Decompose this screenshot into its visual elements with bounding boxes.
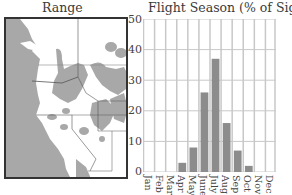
bar-chart-svg	[143, 19, 276, 172]
y-tick-0: 0	[126, 165, 142, 178]
bar-chart-plot	[143, 19, 276, 172]
y-axis: 50 40 30 20 10 0	[126, 0, 142, 195]
y-tick-40: 40	[126, 43, 142, 56]
x-tick-july: July	[209, 175, 220, 193]
x-tick-may: May	[187, 175, 198, 195]
y-tick-20: 20	[126, 104, 142, 117]
bar-oct	[245, 166, 253, 172]
x-tick-apr: Apr	[176, 175, 187, 192]
y-tick-30: 30	[126, 74, 142, 87]
y-tick-50: 50	[126, 13, 142, 26]
chart-title: Flight Season (% of Sightings)	[148, 0, 292, 15]
x-tick-jan: Jan	[143, 175, 154, 191]
x-tick-oct: Oct	[242, 175, 253, 192]
x-tick-feb: Feb	[154, 175, 165, 193]
bar-aug	[223, 123, 231, 172]
x-tick-sep: Sep	[231, 175, 242, 193]
x-tick-dec: Dec	[264, 175, 275, 194]
bar-apr	[178, 163, 186, 172]
range-map	[4, 17, 128, 179]
map-title: Range	[42, 0, 83, 15]
bar-may	[189, 148, 197, 172]
x-tick-aug: Aug	[220, 175, 231, 194]
x-tick-mar: Mar	[165, 175, 176, 195]
bar-july	[212, 59, 220, 172]
y-tick-10: 10	[126, 135, 142, 148]
bar-june	[201, 92, 209, 172]
x-tick-june: June	[198, 175, 209, 195]
x-tick-nov: Nov	[253, 175, 264, 194]
range-map-graphic	[6, 19, 128, 179]
bar-sep	[234, 151, 242, 172]
